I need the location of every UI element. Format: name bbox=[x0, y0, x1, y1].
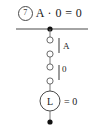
switch-a-terminal-top[interactable] bbox=[47, 37, 53, 43]
terminal-dot bbox=[47, 119, 52, 124]
lamp-value-label: = 0 bbox=[64, 96, 77, 107]
identity-equation: A · 0 = 0 bbox=[36, 6, 82, 21]
switch-zero-terminal-top[interactable] bbox=[47, 64, 53, 70]
circuit-diagram: A 0 L = 0 bbox=[0, 20, 100, 127]
switch-zero-label: 0 bbox=[62, 64, 67, 74]
boolean-identity-figure: 7 A · 0 = 0 A 0 L = 0 bbox=[0, 0, 100, 127]
circled-item-number: 7 bbox=[18, 6, 33, 21]
switch-a-label: A bbox=[63, 41, 70, 51]
switch-a-terminal-bottom[interactable] bbox=[47, 51, 53, 57]
lamp-letter: L bbox=[47, 96, 53, 107]
switch-zero-terminal-bottom[interactable] bbox=[47, 78, 53, 84]
